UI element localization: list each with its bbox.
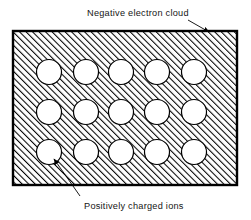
ion-circle xyxy=(74,100,99,125)
ion-circle xyxy=(37,60,62,85)
figure-root: Negative electron cloud Positively charg… xyxy=(0,0,251,220)
ion-circle xyxy=(109,140,134,165)
ion-circle xyxy=(182,60,207,85)
ion-circle xyxy=(37,100,62,125)
ion-circle xyxy=(37,140,62,165)
ion-circle xyxy=(74,140,99,165)
ion-circle xyxy=(74,60,99,85)
label-negative-electron-cloud: Negative electron cloud xyxy=(87,8,189,18)
ion-circle xyxy=(109,100,134,125)
ion-circle xyxy=(109,60,134,85)
ion-circle xyxy=(145,140,170,165)
ion-circle xyxy=(145,100,170,125)
ion-circle xyxy=(145,60,170,85)
ion-circle xyxy=(182,140,207,165)
ion-circle xyxy=(182,100,207,125)
metallic-bonding-diagram: Negative electron cloud Positively charg… xyxy=(0,0,251,220)
label-positively-charged-ions: Positively charged ions xyxy=(84,201,184,211)
